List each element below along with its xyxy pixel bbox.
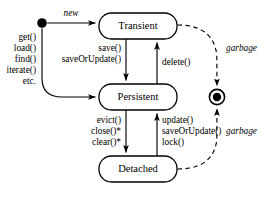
transition-label-clear: clear()* (92, 137, 121, 148)
state-node-detached[interactable]: Detached (99, 156, 177, 182)
transition-initial-to-transient: new (47, 8, 95, 23)
state-node-persistent[interactable]: Persistent (99, 84, 177, 110)
initial-state-node[interactable] (37, 18, 47, 28)
final-state-node[interactable] (209, 89, 224, 104)
transition-label-new: new (64, 8, 80, 18)
transition-label-iterate: iterate() (7, 65, 36, 76)
transition-label-update: update() (162, 115, 193, 126)
initial-state-dot-icon (37, 18, 47, 28)
transition-label-etc: etc. (23, 76, 36, 86)
transition-label-find: find() (15, 54, 36, 65)
state-label-transient: Transient (118, 20, 157, 31)
transition-transient-to-persistent: save() saveOrUpdate() (62, 39, 126, 81)
transition-label-save-or-update-up: saveOrUpdate() (162, 126, 221, 137)
state-label-persistent: Persistent (118, 91, 159, 102)
transition-label-get: get() (18, 32, 36, 43)
edge-line (178, 25, 218, 86)
uml-state-diagram: new get() load() find() iterate() etc. s… (0, 0, 273, 198)
state-node-transient[interactable]: Transient (99, 13, 177, 39)
transition-label-close: close()* (91, 126, 121, 137)
transition-label-delete: delete() (162, 57, 190, 68)
diagram-canvas: new get() load() find() iterate() etc. s… (0, 0, 273, 198)
transition-persistent-to-detached: evict() close()* clear()* (91, 110, 126, 153)
state-label-detached: Detached (118, 163, 158, 174)
transition-label-evict: evict() (97, 115, 121, 126)
transition-transient-to-final: garbage (178, 25, 258, 86)
transition-label-lock: lock() (162, 137, 184, 148)
transition-label-save: save() (98, 43, 121, 54)
transition-detached-to-persistent: update() saveOrUpdate() lock() (157, 114, 221, 157)
transition-label-garbage-top: garbage (226, 43, 257, 53)
final-state-dot-icon (213, 93, 221, 101)
transition-label-load: load() (14, 43, 36, 54)
transition-label-save-or-update-down: saveOrUpdate() (62, 54, 121, 65)
transition-label-garbage-bottom: garbage (226, 126, 257, 136)
transition-persistent-to-transient: delete() (157, 43, 190, 85)
